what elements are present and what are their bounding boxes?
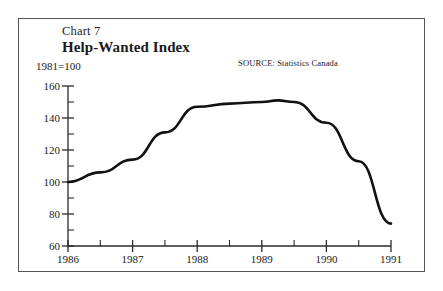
- x-axis-tick-label: 1991: [368, 254, 414, 265]
- x-axis-tick-label: 1986: [45, 254, 91, 265]
- chart-plot-area: Chart 7 Help-Wanted Index 1981=100 SOURC…: [0, 0, 443, 291]
- y-axis-minor-ticks: [68, 102, 74, 230]
- x-axis-tick-label: 1990: [303, 254, 349, 265]
- y-axis-tick-label: 140: [34, 113, 60, 124]
- x-axis-tick-label: 1989: [239, 254, 285, 265]
- y-axis-tick-label: 100: [34, 177, 60, 188]
- x-axis-minor-ticks: [100, 240, 358, 246]
- x-axis-tick-label: 1988: [174, 254, 220, 265]
- y-axis-tick-label: 120: [34, 145, 60, 156]
- x-axis-tick-label: 1987: [110, 254, 156, 265]
- y-axis-tick-label: 60: [34, 241, 60, 252]
- y-axis-tick-label: 160: [34, 81, 60, 92]
- data-line-help-wanted-index: [68, 100, 391, 223]
- y-axis-tick-label: 80: [34, 209, 60, 220]
- chart-axes-and-series: [0, 0, 443, 291]
